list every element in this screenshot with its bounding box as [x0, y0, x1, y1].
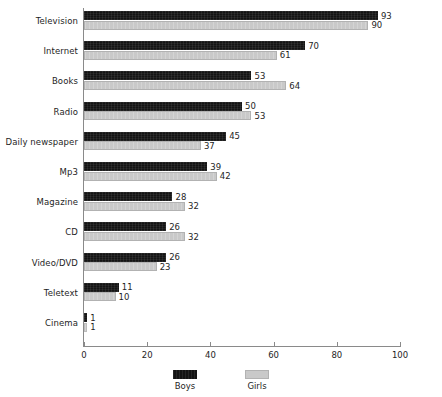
category-label: Teletext	[44, 288, 78, 298]
bar-boys	[84, 102, 242, 111]
category-label: Magazine	[37, 197, 78, 207]
bar-boys	[84, 222, 166, 231]
bar-girls	[84, 141, 201, 150]
category-label: Television	[36, 16, 78, 26]
bar-value-label: 42	[220, 172, 231, 181]
legend-label: Boys	[175, 381, 196, 391]
bar-girls	[84, 21, 368, 30]
bar-value-label: 26	[169, 223, 180, 232]
x-tick-mark	[337, 342, 338, 346]
bar-value-label: 45	[229, 132, 240, 141]
legend-label: Girls	[247, 381, 266, 391]
bar-girls	[84, 51, 277, 60]
bar-value-label: 90	[371, 21, 382, 30]
bar-boys	[84, 11, 378, 20]
category-label: Mp3	[60, 167, 78, 177]
bar-value-label: 1	[90, 323, 95, 332]
bar-boys	[84, 132, 226, 141]
x-tick-label: 20	[142, 350, 153, 360]
bar-girls	[84, 262, 157, 271]
bar-boys	[84, 71, 251, 80]
bar-chart: TelevisionInternetBooksRadioDaily newspa…	[0, 0, 442, 397]
bar-value-label: 11	[122, 283, 133, 292]
bar-value-label: 37	[204, 142, 215, 151]
x-tick-label: 100	[392, 350, 408, 360]
legend-item-girls[interactable]: Girls	[245, 370, 269, 391]
x-tick-mark	[274, 342, 275, 346]
bar-girls	[84, 323, 87, 332]
category-label: Cinema	[45, 318, 78, 328]
category-label: Radio	[54, 107, 78, 117]
bar-value-label: 23	[160, 263, 171, 272]
bar-boys	[84, 253, 166, 262]
bar-boys	[84, 313, 87, 322]
x-tick-mark	[400, 342, 401, 346]
bar-value-label: 26	[169, 253, 180, 262]
bar-girls	[84, 292, 116, 301]
bar-girls	[84, 172, 217, 181]
category-label: Daily newspaper	[6, 137, 78, 147]
bar-value-label: 32	[188, 233, 199, 242]
legend-item-boys[interactable]: Boys	[173, 370, 197, 391]
bar-value-label: 70	[308, 42, 319, 51]
category-label: Video/DVD	[32, 258, 78, 268]
category-label: CD	[65, 227, 78, 237]
category-label: Books	[52, 76, 78, 86]
bar-value-label: 61	[280, 51, 291, 60]
bar-girls	[84, 232, 185, 241]
x-tick-mark	[210, 342, 211, 346]
bar-value-label: 10	[119, 293, 130, 302]
chart-legend: BoysGirls	[0, 370, 442, 391]
x-tick-mark	[147, 342, 148, 346]
bar-value-label: 93	[381, 12, 392, 21]
bar-girls	[84, 81, 286, 90]
bar-value-label: 53	[254, 112, 265, 121]
category-label: Internet	[43, 46, 78, 56]
x-tick-label: 0	[81, 350, 86, 360]
x-axis-line	[83, 346, 401, 347]
x-tick-mark	[84, 342, 85, 346]
bar-boys	[84, 162, 207, 171]
bar-value-label: 64	[289, 82, 300, 91]
bar-boys	[84, 192, 172, 201]
bar-value-label: 50	[245, 102, 256, 111]
x-tick-label: 60	[268, 350, 279, 360]
x-tick-label: 40	[205, 350, 216, 360]
bar-value-label: 32	[188, 202, 199, 211]
legend-swatch-icon	[245, 370, 269, 379]
bar-girls	[84, 111, 251, 120]
bar-value-label: 28	[175, 193, 186, 202]
x-tick-label: 80	[331, 350, 342, 360]
legend-swatch-icon	[173, 370, 197, 379]
bar-boys	[84, 41, 305, 50]
bar-boys	[84, 283, 119, 292]
bar-girls	[84, 202, 185, 211]
bar-value-label: 53	[254, 72, 265, 81]
